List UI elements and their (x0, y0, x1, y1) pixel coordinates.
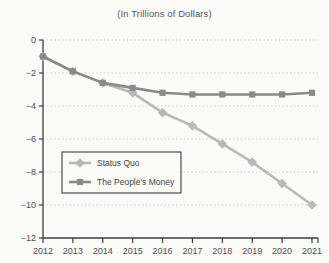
data-point-marker (159, 90, 165, 96)
x-axis-tick-label: 2017 (182, 246, 202, 256)
legend-item-label: The People's Money (97, 177, 175, 187)
data-series (40, 53, 315, 97)
y-axis-tick-labels: 0−2−4−6−8−10−12 (21, 35, 36, 243)
y-axis-tick-label: −4 (26, 101, 36, 111)
x-axis-tick-label: 2019 (242, 246, 262, 256)
x-axis-tick-label: 2018 (212, 246, 232, 256)
x-axis-tick-label: 2012 (33, 246, 53, 256)
data-point-marker (309, 90, 315, 96)
x-axis-tick-label: 2016 (153, 246, 173, 256)
x-axis-tick-label: 2014 (93, 246, 113, 256)
chart-container: (In Trillions of Dollars) 0−2−4−6−8−10−1… (0, 0, 329, 263)
x-axis-tick-labels: 2012201320142015201620172018201920202021 (33, 246, 322, 256)
data-point-marker (100, 80, 106, 86)
axes (39, 40, 318, 243)
y-axis-tick-label: −10 (21, 200, 36, 210)
x-axis-tick-label: 2013 (63, 246, 83, 256)
data-point-marker (219, 91, 225, 97)
data-point-marker (130, 85, 136, 91)
y-axis-tick-label: 0 (31, 35, 36, 45)
data-point-marker (189, 91, 195, 97)
chart-legend: Status QuoThe People's Money (62, 152, 181, 193)
y-axis-tick-label: −8 (26, 167, 36, 177)
x-axis-tick-label: 2015 (123, 246, 143, 256)
data-point-marker (279, 91, 285, 97)
y-axis-tick-label: −2 (26, 68, 36, 78)
y-axis-tick-label: −6 (26, 134, 36, 144)
legend-item-label: Status Quo (97, 158, 140, 168)
x-axis-tick-label: 2020 (272, 246, 292, 256)
data-point-marker (40, 53, 46, 59)
y-axis-tick-label: −12 (21, 233, 36, 243)
data-point-marker (70, 68, 76, 74)
x-axis-tick-label: 2021 (302, 246, 322, 256)
data-point-marker (249, 91, 255, 97)
chart-plot: 0−2−4−6−8−10−12 201220132014201520162017… (0, 0, 329, 263)
series-line (43, 57, 312, 95)
data-point-marker (77, 179, 83, 185)
